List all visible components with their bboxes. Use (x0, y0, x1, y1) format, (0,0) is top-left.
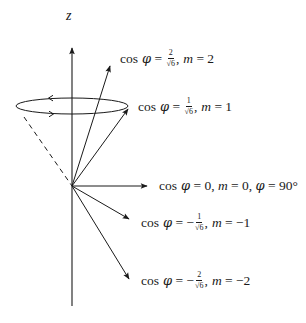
cone-dashed-edge (24, 117, 72, 186)
comma: , (176, 52, 179, 66)
vector-m-neg1 (72, 186, 129, 219)
equals-text: = (172, 274, 186, 288)
angle-value: = 90° (265, 179, 298, 193)
fraction: 2 √6 (195, 271, 203, 290)
phi-symbol: φ (142, 52, 151, 65)
label-m-neg2: cos φ = − 2 √6 , m = −2 (141, 271, 250, 290)
m-value: = −2 (222, 274, 251, 288)
m-value: = 0, (228, 179, 256, 193)
vector-m-1 (72, 109, 128, 186)
label-m-1: cos φ = 1 √6 , m = 1 (138, 97, 232, 116)
fraction-numerator: 1 (186, 97, 192, 107)
phi-symbol: φ (160, 100, 169, 113)
fraction-denominator: √6 (195, 281, 203, 290)
m-value: = −1 (222, 216, 251, 230)
comma: , (205, 274, 208, 288)
m-symbol: m (218, 179, 228, 193)
label-m-2: cos φ = 2 √6 , m = 2 (120, 49, 214, 68)
fraction: 1 √6 (184, 97, 192, 116)
fraction-numerator: 1 (196, 213, 202, 223)
label-m-neg1: cos φ = − 1 √6 , m = −1 (141, 213, 250, 232)
fraction: 1 √6 (195, 213, 203, 232)
precession-arrow-right-icon (49, 111, 54, 117)
minus-sign: − (186, 216, 194, 230)
m-value: = 1 (211, 100, 232, 114)
cos-text: cos (141, 274, 159, 288)
label-m-0: cos φ = 0, m = 0, φ = 90° (159, 179, 298, 193)
phi-symbol: φ (181, 179, 190, 192)
phi-symbol-2: φ (256, 179, 265, 192)
fraction-numerator: 2 (196, 271, 202, 281)
comma: , (194, 100, 197, 114)
phi-symbol: φ (163, 274, 172, 287)
m-symbol: m (212, 216, 222, 230)
fraction-denominator: √6 (195, 223, 203, 232)
m-symbol: m (201, 100, 211, 114)
vector-m-2 (72, 66, 110, 186)
fraction-denominator: √6 (166, 59, 174, 68)
angular-momentum-diagram: z cos φ = 2 √6 , m = 2 cos φ = 1 √6 , m … (0, 0, 306, 323)
minus-sign: − (186, 274, 194, 288)
equals-text: = 0, (190, 179, 218, 193)
m-symbol: m (183, 52, 193, 66)
fraction-numerator: 2 (168, 49, 174, 59)
z-axis-label: z (66, 8, 71, 24)
phi-symbol: φ (163, 216, 172, 229)
cos-text: cos (138, 100, 156, 114)
cos-text: cos (141, 216, 159, 230)
cos-text: cos (120, 52, 138, 66)
equals-text: = (151, 52, 165, 66)
equals-text: = (169, 100, 183, 114)
cos-text: cos (159, 179, 177, 193)
equals-text: = (172, 216, 186, 230)
vector-m-neg2 (72, 186, 129, 279)
fraction-denominator: √6 (184, 107, 192, 116)
m-symbol: m (212, 274, 222, 288)
comma: , (205, 216, 208, 230)
fraction: 2 √6 (166, 49, 174, 68)
m-value: = 2 (193, 52, 214, 66)
